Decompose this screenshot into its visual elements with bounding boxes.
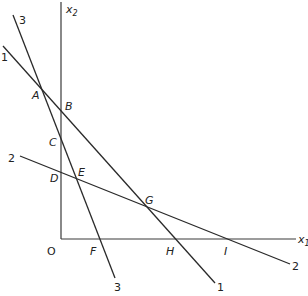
point-D-label: D	[50, 172, 58, 185]
point-G-label: G	[145, 194, 154, 207]
x1-axis-label: x1	[297, 233, 308, 248]
line-1-bottom-label: 1	[217, 281, 224, 294]
point-F-label: F	[90, 245, 97, 258]
point-H-label: H	[166, 245, 174, 258]
line-1-left-label: 1	[1, 51, 8, 64]
line-2-right-label: 2	[292, 260, 299, 273]
line-3-bottom-label: 3	[114, 281, 121, 294]
line-3-top-label: 3	[19, 14, 26, 27]
line-2-left-label: 2	[8, 152, 15, 165]
x2-axis-label: x2	[65, 3, 78, 18]
point-I-label: I	[224, 245, 227, 258]
origin-label: O	[47, 245, 56, 258]
point-E-label: E	[78, 166, 85, 179]
constraint-line-1	[3, 46, 215, 283]
point-C-label: C	[49, 136, 57, 149]
diagram-canvas: x2 x1 O 3 1 2 3 1 2 A B C D E F G H I	[0, 0, 308, 296]
point-A-label: A	[31, 89, 40, 102]
point-B-label: B	[65, 100, 73, 113]
